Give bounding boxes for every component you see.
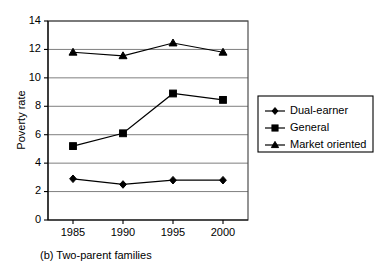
y-tick-label: 8: [35, 99, 41, 111]
y-tick-label: 4: [35, 156, 41, 168]
x-axis-ticks: 1985199019952000: [61, 220, 235, 238]
x-tick-label: 1990: [111, 226, 135, 238]
chart-legend: Dual-earnerGeneralMarket oriented: [258, 96, 373, 152]
marker-square: [70, 143, 77, 150]
y-tick-label: 6: [35, 128, 41, 140]
x-tick-label: 2000: [211, 226, 235, 238]
y-tick-label: 2: [35, 184, 41, 196]
figure-container: 02468101214 1985199019952000 Poverty rat…: [0, 0, 386, 278]
figure-caption: (b) Two-parent families: [40, 249, 152, 261]
y-axis-title: Poverty rate: [15, 90, 27, 149]
y-tick-label: 14: [29, 14, 41, 26]
marker-square: [120, 130, 127, 137]
legend-label: Market oriented: [290, 138, 366, 150]
legend-label: Dual-earner: [290, 104, 348, 116]
marker-square: [220, 96, 227, 103]
x-tick-label: 1985: [61, 226, 85, 238]
y-tick-label: 12: [29, 42, 41, 54]
x-tick-label: 1995: [161, 226, 185, 238]
y-tick-label: 0: [35, 213, 41, 225]
poverty-rate-line-chart: 02468101214 1985199019952000 Poverty rat…: [0, 0, 386, 278]
legend-label: General: [290, 121, 329, 133]
y-axis-ticks: 02468101214: [29, 14, 48, 225]
y-tick-label: 10: [29, 71, 41, 83]
marker-square: [170, 90, 177, 97]
marker-square: [272, 125, 278, 131]
